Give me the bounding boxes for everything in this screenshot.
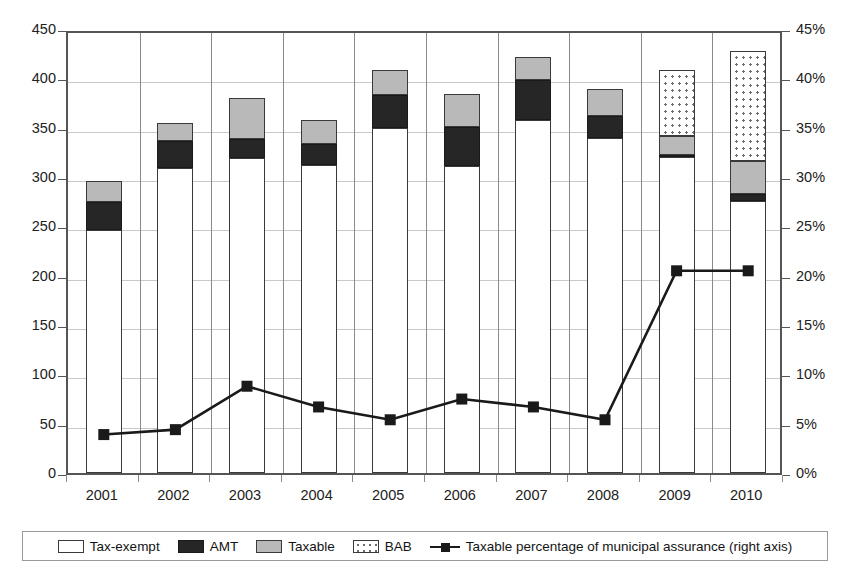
y-axis-left-tick: [58, 278, 66, 279]
line-marker-2002[interactable]: [170, 424, 181, 435]
x-axis-tick-label-2006: 2006: [420, 487, 500, 503]
line-series-group: [68, 33, 784, 477]
y-axis-right-tick: [782, 179, 790, 180]
chart-legend: Tax-exemptAMTTaxableBABTaxable percentag…: [22, 531, 828, 561]
y-axis-right-tick: [782, 80, 790, 81]
line-path: [104, 271, 748, 435]
y-axis-left-tick-label: 50: [12, 417, 56, 432]
y-axis-left-tick-label: 400: [12, 71, 56, 86]
y-axis-right-tick-label: 45%: [796, 22, 846, 37]
legend-line-marker-icon: [430, 540, 460, 553]
y-axis-left-tick: [58, 475, 66, 476]
y-axis-left-tick-label: 150: [12, 318, 56, 333]
legend-label: Taxable: [288, 539, 335, 554]
y-axis-left-tick-label: 200: [12, 269, 56, 284]
x-axis-tick: [138, 475, 139, 482]
x-axis-tick-label-2004: 2004: [277, 487, 357, 503]
x-axis-tick-label-2001: 2001: [62, 487, 142, 503]
x-axis-tick: [66, 475, 67, 482]
y-axis-left-tick: [58, 80, 66, 81]
x-axis-tick-label-2009: 2009: [635, 487, 715, 503]
line-marker-2003[interactable]: [242, 381, 253, 392]
legend-label: Taxable percentage of municipal assuranc…: [466, 539, 792, 554]
y-axis-right-tick-label: 25%: [796, 219, 846, 234]
legend-item-line[interactable]: Taxable percentage of municipal assuranc…: [430, 539, 792, 554]
plot-area: [66, 31, 782, 475]
x-axis-tick-label-2008: 2008: [563, 487, 643, 503]
line-marker-2001[interactable]: [98, 429, 109, 440]
y-axis-right-tick-label: 5%: [796, 417, 846, 432]
y-axis-right-tick-label: 40%: [796, 71, 846, 86]
legend-swatch-taxable-icon: [256, 540, 282, 553]
x-axis-tick: [567, 475, 568, 482]
y-axis-left-tick: [58, 426, 66, 427]
y-axis-right-tick: [782, 278, 790, 279]
legend-item-amt[interactable]: AMT: [178, 539, 239, 554]
y-axis-left-tick-label: 100: [12, 367, 56, 382]
line-marker-2009[interactable]: [671, 265, 682, 276]
x-axis-tick-label-2002: 2002: [133, 487, 213, 503]
line-marker-2010[interactable]: [743, 265, 754, 276]
legend-swatch-bab-icon: [353, 540, 379, 553]
y-axis-right-tick: [782, 327, 790, 328]
y-axis-right-tick: [782, 228, 790, 229]
x-axis-tick: [496, 475, 497, 482]
line-marker-2005[interactable]: [385, 414, 396, 425]
y-axis-left-tick-label: 250: [12, 219, 56, 234]
line-marker-2006[interactable]: [456, 394, 467, 405]
x-axis-tick: [710, 475, 711, 482]
line-marker-2004[interactable]: [313, 401, 324, 412]
y-axis-left-tick: [58, 376, 66, 377]
y-axis-left-tick-label: 350: [12, 121, 56, 136]
y-axis-left-tick: [58, 179, 66, 180]
legend-item-taxable[interactable]: Taxable: [256, 539, 335, 554]
x-axis-tick-label-2005: 2005: [348, 487, 428, 503]
legend-label: BAB: [385, 539, 412, 554]
y-axis-left-tick: [58, 228, 66, 229]
legend-label: Tax-exempt: [90, 539, 160, 554]
line-marker-2008[interactable]: [600, 414, 611, 425]
legend-item-taxexempt[interactable]: Tax-exempt: [58, 539, 160, 554]
x-axis-tick: [782, 475, 783, 482]
y-axis-right-tick-label: 20%: [796, 269, 846, 284]
y-axis-left-tick-label: 450: [12, 22, 56, 37]
y-axis-right-tick-label: 15%: [796, 318, 846, 333]
chart-root: 050100150200250300350400450 0%5%10%15%20…: [0, 0, 850, 574]
x-axis-tick: [424, 475, 425, 482]
y-axis-right-tick: [782, 130, 790, 131]
y-axis-right-tick: [782, 31, 790, 32]
legend-item-bab[interactable]: BAB: [353, 539, 412, 554]
y-axis-left-tick-label: 0: [12, 466, 56, 481]
y-axis-right-tick: [782, 376, 790, 377]
y-axis-right-tick-label: 35%: [796, 121, 846, 136]
x-axis-tick: [209, 475, 210, 482]
x-axis-tick: [352, 475, 353, 482]
y-axis-left-tick: [58, 327, 66, 328]
x-axis-tick: [639, 475, 640, 482]
y-axis-right-tick-label: 30%: [796, 170, 846, 185]
y-axis-right-tick-label: 0%: [796, 466, 846, 481]
x-axis-tick-label-2007: 2007: [491, 487, 571, 503]
x-axis-tick-label-2010: 2010: [706, 487, 786, 503]
y-axis-left-tick: [58, 130, 66, 131]
y-axis-left-tick-label: 300: [12, 170, 56, 185]
y-axis-left-tick: [58, 31, 66, 32]
legend-swatch-taxexempt-icon: [58, 540, 84, 553]
legend-label: AMT: [210, 539, 239, 554]
y-axis-right-tick-label: 10%: [796, 367, 846, 382]
x-axis-tick: [281, 475, 282, 482]
y-axis-right-tick: [782, 426, 790, 427]
legend-swatch-amt-icon: [178, 540, 204, 553]
x-axis-tick-label-2003: 2003: [205, 487, 285, 503]
line-marker-2007[interactable]: [528, 401, 539, 412]
y-axis-right-tick: [782, 475, 790, 476]
